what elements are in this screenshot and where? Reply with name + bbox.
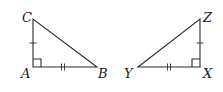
congruent-triangles-diagram: C A B Z X Y <box>0 0 223 92</box>
triangle-abc-outline <box>33 19 97 67</box>
vertex-label-c: C <box>22 10 32 25</box>
vertex-label-a: A <box>20 66 30 81</box>
vertex-label-x: X <box>202 66 213 81</box>
triangle-xyz: Z X Y <box>124 10 213 81</box>
vertex-label-b: B <box>97 66 108 81</box>
vertex-label-z: Z <box>202 10 213 25</box>
vertex-label-y: Y <box>124 66 134 81</box>
right-angle-marker-a <box>33 59 41 67</box>
triangle-xyz-outline <box>138 19 200 67</box>
right-angle-marker-x <box>192 59 200 67</box>
triangle-abc: C A B <box>20 10 108 81</box>
